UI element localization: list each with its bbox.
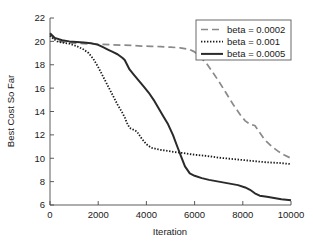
- y-tick-label: 18: [34, 59, 45, 70]
- x-axis-label: Iteration: [153, 226, 187, 237]
- legend-label-2: beta = 0.0005: [227, 48, 285, 59]
- y-tick-label: 22: [34, 12, 45, 23]
- x-tick-label: 10000: [278, 209, 304, 220]
- chart-legend: beta = 0.0002beta = 0.001beta = 0.0005: [196, 20, 291, 60]
- y-tick-label: 14: [34, 106, 45, 117]
- x-tick-label: 8000: [232, 209, 253, 220]
- legend-label-1: beta = 0.001: [227, 36, 280, 47]
- line-chart: 0200040006000800010000 6810121416182022 …: [0, 0, 313, 247]
- y-tick-label: 12: [34, 129, 45, 140]
- chart-figure: 0200040006000800010000 6810121416182022 …: [0, 0, 313, 247]
- y-tick-label: 16: [34, 83, 45, 94]
- x-tick-label: 4000: [136, 209, 157, 220]
- y-tick-label: 8: [40, 176, 45, 187]
- x-axis-ticks: 0200040006000800010000: [47, 201, 304, 220]
- y-axis-label: Best Cost So Far: [5, 75, 16, 147]
- x-tick-label: 6000: [184, 209, 205, 220]
- y-axis-ticks: 6810121416182022: [34, 12, 54, 210]
- x-tick-label: 2000: [88, 209, 109, 220]
- x-tick-label: 0: [47, 209, 52, 220]
- y-tick-label: 20: [34, 36, 45, 47]
- legend-label-0: beta = 0.0002: [227, 24, 285, 35]
- y-tick-label: 6: [40, 199, 45, 210]
- y-tick-label: 10: [34, 153, 45, 164]
